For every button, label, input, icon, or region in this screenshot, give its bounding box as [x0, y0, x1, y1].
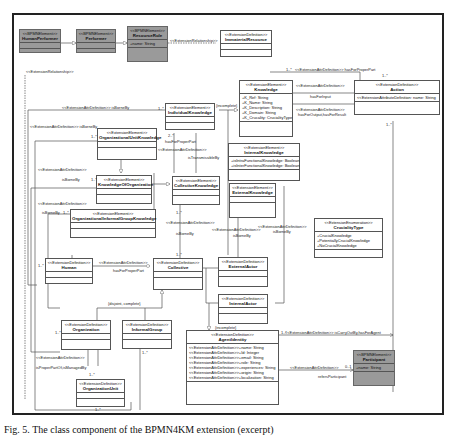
class-cruciality-type: <<ExtensionEnumeration>>CrucialityType +… — [314, 218, 383, 258]
label-is-borne-by-5: isBorneBy — [176, 231, 194, 236]
label-mult: 1..* — [286, 67, 292, 72]
label-ext-relationship-1: <<ExtensionRelationship>> — [170, 38, 218, 43]
class-organizational-unit-knowledge: <<ExtensionElement>>OrganizationalUnitKn… — [97, 128, 157, 160]
label-mult: 1..* — [281, 330, 287, 335]
label-mult: 1..* — [386, 122, 392, 127]
class-human: <<ExtensionDefinition>>Human — [45, 258, 93, 284]
label-is-borne-by-1: <<ExtensionAttrDefinition>> isBorneBy — [62, 105, 129, 110]
label-is-borne-by-6: isBorneBy — [233, 233, 251, 238]
figure-caption: Fig. 5. The class component of the BPMN4… — [4, 424, 274, 435]
label-mult: 1..* — [63, 210, 69, 215]
class-resource-role: <<BPMNElement>>ResourceRole +name: Strin… — [127, 26, 168, 62]
label-is-transmissible-stereotype: <<ExtensionAttrDefinition>> — [158, 147, 206, 152]
label-refers-participant: refersParticipant — [318, 374, 346, 379]
label-mult: 1..* — [158, 106, 164, 111]
label-mult: 1..* — [91, 134, 97, 139]
label-is-borne-by-3-stereotype: <<ExtensionAttrDefinition>> — [38, 167, 86, 172]
label-is-borne-by-6-stereotype: <<ExtensionAttrDefinition>> — [212, 227, 260, 232]
label-is-borne-by-4: isBorneBy — [42, 210, 60, 215]
label-mult: 1..* — [55, 330, 61, 335]
class-external-actor: <<ExtensionDefinition>>ExternalActor — [218, 257, 268, 287]
label-has-for-input: hasForInput — [310, 94, 331, 99]
label-mult: 1..* — [89, 372, 95, 377]
label-has-for-proper-part-top: <<ExtensionAttrDefinition>> hasForProper… — [295, 67, 375, 72]
class-agent-identity: <<ExtensionDefinition>>AgentIdentity <<E… — [186, 330, 279, 405]
label-mult: 1..* — [91, 177, 97, 182]
label-is-proper-part-stereotype: <<ExtensionAttrDefinition>> — [36, 355, 84, 360]
class-organization: <<ExtensionDefinition>>Organization — [61, 320, 111, 350]
class-internal-knowledge: <<ExtensionElement>>InternalKnowledge +i… — [228, 143, 300, 181]
class-collective-knowledge: <<ExtensionElement>>CollectiveKnowledge — [172, 176, 220, 205]
class-external-knowledge: <<ExtensionElement>>ExternalKnowledge — [229, 183, 276, 218]
label-is-transmissible: isTransmissibleBy — [188, 155, 219, 160]
label-is-proper-part: isProperPartOf,isManagedBy — [36, 365, 86, 370]
label-human-collective: hasForProperPart — [113, 268, 144, 273]
label-mult: 1..* — [382, 73, 388, 78]
label-is-borne-by-5-stereotype: <<ExtensionAttrDefinition>> — [166, 220, 214, 225]
label-human-collective-stereotype: <<ExtensionAttrDefinition>> — [99, 260, 147, 265]
class-org-informal-group-knowledge: <<ExtensionElement>>OrganizationalInform… — [70, 209, 156, 238]
class-human-performer: <<BPMNElement>>HumanPerformer — [19, 29, 61, 53]
label-is-borne-by-3: isBorneBy — [62, 177, 80, 182]
class-individual-knowledge: <<ExtensionElement>>IndividualKnowledge — [165, 103, 215, 130]
label-disjoint-complete: {disjoint, complete} — [108, 301, 141, 306]
label-ext-relationship-2: <<ExtensionRelationship>> — [26, 69, 74, 74]
label-incomplete-1: {incomplete} — [216, 103, 237, 108]
label-incomplete-2: {incomplete} — [215, 325, 236, 330]
label-has-for-output: hasForOutput,hasForResult — [298, 112, 346, 117]
label-is-borne-by-2: <<ExtensionAttrDefinition>> isBorneBy — [30, 124, 97, 129]
label-is-borne-by-7: isBorneBy — [273, 229, 291, 234]
class-action: <<ExtensionDefinition>>Action <<Extensio… — [354, 80, 440, 115]
label-mult: 1..* — [176, 210, 182, 215]
class-collective: <<ExtensionDefinition>>Collective — [153, 258, 203, 290]
class-internal-actor: <<ExtensionDefinition>>InternalActor — [218, 294, 268, 324]
label-is-borne-by-4-stereotype: <<ExtensionAttrDefinition>> — [38, 201, 86, 206]
label-mult: 1..* — [95, 407, 101, 412]
class-informal-group: <<ExtensionDefinition>>InformalGroup — [122, 320, 172, 349]
label-mult: 0..1 — [345, 364, 352, 369]
label-mult: 1..* — [176, 252, 182, 257]
class-organization-unit: <<ExtensionDefinition>>OrganizationUnit — [76, 379, 125, 407]
label-has-for-input-stereotype: <<ExtensionAttrDefinition>> — [296, 83, 344, 88]
label-has-for-proper-part-ik: hasForProperPart — [165, 139, 196, 144]
class-participant: <<BPMNElement>>Participant +name: String — [353, 350, 395, 386]
class-performer: <<BPMNElement>>Performer — [76, 29, 116, 53]
class-knowledge: <<ExtensionElement>>Knowledge +K_Ref: St… — [239, 80, 293, 137]
label-mult: 1..* — [38, 263, 44, 268]
class-knowledge-of-organization: <<ExtensionElement>>KnowledgeOfOrganizat… — [96, 175, 152, 204]
label-carry-out: <<ExtensionAttrDefinition>> isCarryOutBy… — [285, 330, 381, 335]
label-mult: 2..* — [168, 133, 174, 138]
label-refers-participant-stereotype: <<ExtensionAttrDefinition>> — [290, 365, 338, 370]
label-mult: 1..* — [142, 350, 148, 355]
class-immaterial-resource: <<ExtensionDefinition>>ImmaterialResourc… — [220, 30, 272, 57]
